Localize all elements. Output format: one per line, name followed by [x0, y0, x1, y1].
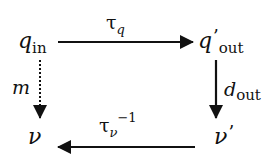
- tau-q-subscript: q: [117, 22, 125, 37]
- v-prime-symbol: ν: [214, 124, 227, 149]
- tau-v-subscript: ν: [110, 125, 118, 140]
- node-v: ν: [28, 126, 41, 148]
- d-symbol: d: [224, 78, 236, 100]
- m-symbol: m: [12, 76, 30, 98]
- tau-v-superscript: −1: [117, 110, 136, 125]
- node-q-out: q’out: [198, 30, 244, 52]
- q-out-prime: ’: [213, 26, 219, 47]
- tau-symbol: τ: [106, 11, 117, 33]
- q-out-subscript: out: [219, 39, 244, 57]
- q-in-subscript: in: [32, 39, 46, 57]
- d-out-subscript: out: [236, 86, 261, 104]
- q-in-symbol: q: [18, 28, 32, 53]
- tau-v-symbol: τ: [99, 114, 110, 136]
- v-symbol: ν: [28, 124, 41, 149]
- q-out-symbol: q: [198, 28, 212, 53]
- label-d-out: dout: [224, 80, 261, 99]
- label-m: m: [12, 78, 30, 97]
- label-tau-v-inverse: τν−1: [99, 116, 137, 135]
- v-prime-mark: ’: [228, 122, 234, 143]
- node-v-prime: ν’: [214, 126, 234, 148]
- label-tau-q: τq: [106, 13, 125, 32]
- node-q-in: qin: [18, 30, 47, 52]
